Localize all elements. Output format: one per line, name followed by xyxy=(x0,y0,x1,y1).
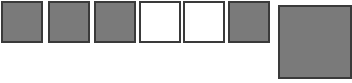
swatch-2[interactable] xyxy=(48,1,90,43)
swatch-3[interactable] xyxy=(94,1,136,43)
swatch-1[interactable] xyxy=(1,1,43,43)
swatch-5[interactable] xyxy=(183,1,225,43)
swatch-6[interactable] xyxy=(228,1,270,43)
swatch-7-large[interactable] xyxy=(278,5,352,79)
swatch-4[interactable] xyxy=(139,1,181,43)
swatch-canvas xyxy=(0,0,352,83)
